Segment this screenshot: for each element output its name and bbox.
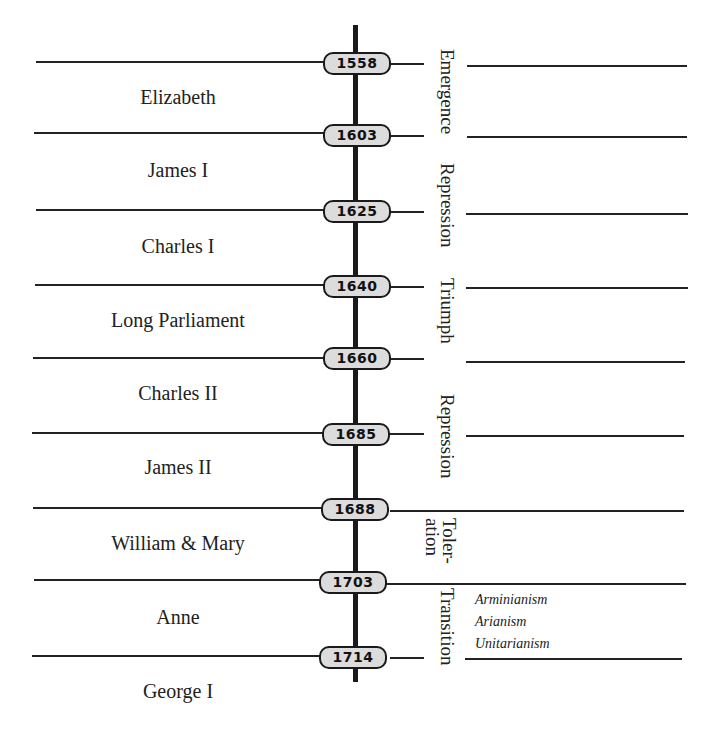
reign-label: James I xyxy=(38,159,318,182)
year-pill: 1685 xyxy=(322,423,390,446)
divider-stub xyxy=(390,211,424,213)
year-pill: 1660 xyxy=(323,347,391,370)
divider-line-right xyxy=(467,65,687,67)
divider-line xyxy=(32,432,326,434)
divider-line xyxy=(33,507,326,509)
divider-stub xyxy=(390,358,424,360)
year-pill: 1558 xyxy=(323,52,391,75)
divider-line xyxy=(32,655,324,657)
era-label-emergence: Emergence xyxy=(436,49,458,134)
divider-line-right xyxy=(466,361,685,363)
transition-note: Unitarianism xyxy=(475,636,550,652)
divider-stub xyxy=(390,433,424,435)
year-pill: 1640 xyxy=(323,275,391,298)
divider-stub xyxy=(390,657,424,659)
transition-note: Arianism xyxy=(475,614,526,630)
divider-line-right xyxy=(466,435,684,437)
divider-stub xyxy=(390,286,424,288)
era-label-repression: Repression xyxy=(436,394,458,478)
reign-label: Elizabeth xyxy=(38,86,318,109)
era-label-triumph: Triumph xyxy=(436,278,458,344)
era-label-repression: Repression xyxy=(436,163,458,247)
divider-line-right xyxy=(386,583,686,585)
era-label-toleration: Toler- ation xyxy=(424,518,458,564)
reign-label: William & Mary xyxy=(38,532,318,555)
era-label-transition: Transition xyxy=(436,588,458,665)
year-pill: 1603 xyxy=(323,124,391,147)
reign-label: Long Parliament xyxy=(38,309,318,332)
reign-label: George I xyxy=(38,680,318,703)
divider-line-right xyxy=(466,213,688,215)
divider-line-right xyxy=(390,510,684,512)
divider-line xyxy=(36,61,326,63)
year-pill: 1703 xyxy=(319,571,387,594)
divider-stub xyxy=(390,63,424,65)
year-pill: 1625 xyxy=(323,200,391,223)
divider-line-right xyxy=(465,658,682,660)
year-pill: 1714 xyxy=(319,646,387,669)
reign-label: Anne xyxy=(38,606,318,629)
divider-line xyxy=(34,132,326,134)
divider-line xyxy=(35,284,326,286)
reign-label: James II xyxy=(38,456,318,479)
divider-line-right xyxy=(467,136,687,138)
year-pill: 1688 xyxy=(321,498,389,521)
reign-label: Charles II xyxy=(38,382,318,405)
divider-line xyxy=(34,579,324,581)
divider-line xyxy=(36,209,326,211)
divider-line-right xyxy=(466,287,688,289)
transition-note: Arminianism xyxy=(475,592,547,608)
divider-stub xyxy=(390,135,424,137)
divider-line xyxy=(33,357,326,359)
reign-label: Charles I xyxy=(38,235,318,258)
